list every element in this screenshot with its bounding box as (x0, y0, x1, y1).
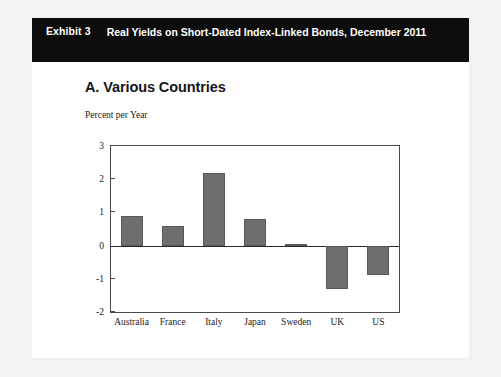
bar-italy (203, 173, 225, 246)
bar-japan (244, 219, 266, 246)
x-tick-label: UK (330, 317, 344, 327)
bar-us (367, 246, 389, 276)
x-tick-label: Italy (205, 317, 222, 327)
x-tick-label: Australia (114, 317, 149, 327)
y-tick-label: -2 (96, 307, 104, 317)
bar-chart: 3210-1-2 AustraliaFranceItalyJapanSweden… (32, 62, 469, 358)
y-tick-label: 1 (99, 207, 104, 217)
y-axis-tick-labels: 3210-1-2 (82, 145, 104, 313)
bar-australia (121, 216, 143, 246)
y-tick-mark (110, 145, 115, 146)
x-tick-label: Japan (244, 317, 266, 327)
y-tick-label: 3 (99, 141, 104, 151)
y-tick-label: 2 (99, 174, 104, 184)
x-tick-label: US (372, 317, 384, 327)
bars-layer (111, 146, 399, 312)
x-axis-tick-labels: AustraliaFranceItalyJapanSwedenUKUS (111, 317, 399, 333)
chart-card: A. Various Countries Percent per Year 32… (32, 62, 469, 358)
y-tick-label: 0 (99, 241, 104, 251)
y-tick-mark (110, 278, 115, 279)
y-tick-mark (110, 311, 115, 312)
bar-sweden (285, 244, 307, 246)
y-tick-label: -1 (96, 274, 104, 284)
screenshot-page: Exhibit 3 Real Yields on Short-Dated Ind… (0, 0, 501, 377)
bar-france (162, 226, 184, 246)
y-tick-mark (110, 178, 115, 179)
exhibit-header-bar: Exhibit 3 Real Yields on Short-Dated Ind… (32, 18, 469, 62)
exhibit-number-label: Exhibit 3 (46, 25, 91, 37)
y-tick-mark (110, 211, 115, 212)
bar-uk (326, 246, 348, 289)
x-tick-label: France (160, 317, 186, 327)
x-tick-label: Sweden (281, 317, 311, 327)
exhibit-title: Real Yields on Short-Dated Index-Linked … (107, 25, 427, 39)
